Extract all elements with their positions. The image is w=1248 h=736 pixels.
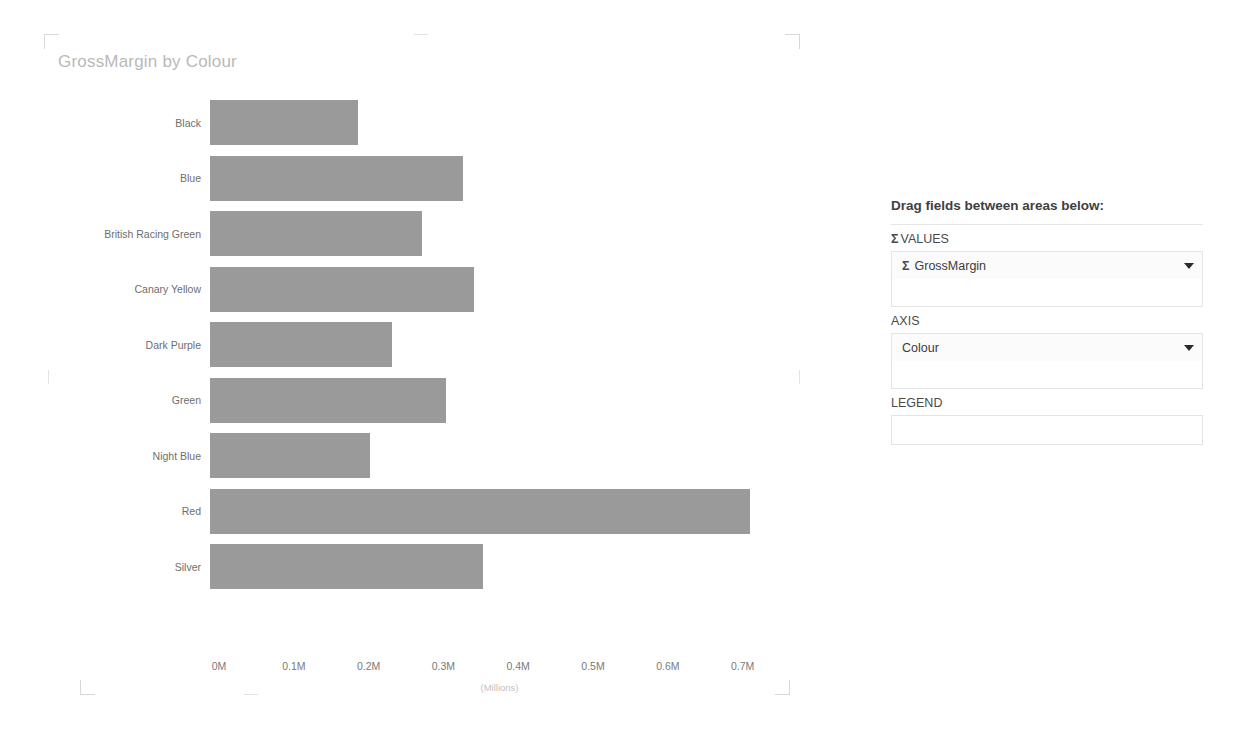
field-chip-label: Colour bbox=[902, 341, 1178, 355]
bar-category-label: Silver bbox=[64, 561, 210, 573]
resize-handle-top[interactable] bbox=[414, 34, 428, 35]
bar-row[interactable]: Green bbox=[64, 373, 780, 429]
selection-corner-top-right bbox=[785, 34, 800, 49]
bar-track bbox=[210, 428, 780, 484]
field-well-section-label: LEGEND bbox=[891, 396, 942, 410]
bar-fill[interactable] bbox=[210, 211, 422, 256]
field-well-divider bbox=[891, 224, 1203, 225]
field-well-section-title: ΣVALUES bbox=[891, 232, 1203, 246]
bar-category-label: Dark Purple bbox=[64, 339, 210, 351]
bar-track bbox=[210, 151, 780, 207]
field-drop-area[interactable] bbox=[891, 415, 1203, 445]
bar-row[interactable]: Blue bbox=[64, 151, 780, 207]
bar-fill[interactable] bbox=[210, 322, 392, 367]
bar-category-label: Night Blue bbox=[64, 450, 210, 462]
x-axis-tick: 0.7M bbox=[731, 660, 754, 672]
selection-corner-top-left bbox=[44, 34, 59, 49]
field-chip-label: GrossMargin bbox=[915, 259, 1178, 273]
bar-fill[interactable] bbox=[210, 156, 463, 201]
field-well-section-title: LEGEND bbox=[891, 396, 1203, 410]
bar-row[interactable]: Red bbox=[64, 484, 780, 540]
bar-category-label: Green bbox=[64, 394, 210, 406]
x-axis-tick: 0.1M bbox=[282, 660, 305, 672]
bar-track bbox=[210, 95, 780, 151]
bar-fill[interactable] bbox=[210, 378, 446, 423]
x-axis-tick: 0M bbox=[212, 660, 227, 672]
field-well-section: LEGEND bbox=[891, 396, 1203, 445]
bar-track bbox=[210, 206, 780, 262]
bar-category-label: Red bbox=[64, 505, 210, 517]
field-well-heading: Drag fields between areas below: bbox=[891, 198, 1203, 213]
chart-visual-container[interactable]: GrossMargin by Colour BlackBlueBritish R… bbox=[44, 30, 800, 695]
x-axis: 0M0.1M0.2M0.3M0.4M0.5M0.6M0.7M (Millions… bbox=[64, 660, 780, 700]
bar-track bbox=[210, 539, 780, 595]
x-axis-tick: 0.3M bbox=[432, 660, 455, 672]
bar-row[interactable]: Night Blue bbox=[64, 428, 780, 484]
x-axis-label: (Millions) bbox=[219, 682, 780, 693]
field-well-section: AXISColour bbox=[891, 314, 1203, 389]
bar-category-label: Black bbox=[64, 117, 210, 129]
chevron-down-icon[interactable] bbox=[1184, 345, 1194, 351]
x-axis-tick: 0.4M bbox=[507, 660, 530, 672]
field-chip[interactable]: Colour bbox=[892, 334, 1202, 361]
x-axis-tick: 0.5M bbox=[581, 660, 604, 672]
bar-category-label: Canary Yellow bbox=[64, 283, 210, 295]
field-well-section-label: AXIS bbox=[891, 314, 920, 328]
bar-row[interactable]: Silver bbox=[64, 539, 780, 595]
x-axis-tick-labels: 0M0.1M0.2M0.3M0.4M0.5M0.6M0.7M bbox=[219, 660, 780, 676]
bar-row[interactable]: Canary Yellow bbox=[64, 262, 780, 318]
x-axis-tick: 0.6M bbox=[656, 660, 679, 672]
bar-row[interactable]: Dark Purple bbox=[64, 317, 780, 373]
bar-category-label: Blue bbox=[64, 172, 210, 184]
chevron-down-icon[interactable] bbox=[1184, 263, 1194, 269]
bar-track bbox=[210, 484, 780, 540]
resize-handle-left[interactable] bbox=[48, 370, 49, 384]
bar-fill[interactable] bbox=[210, 267, 474, 312]
bar-fill[interactable] bbox=[210, 544, 483, 589]
bar-track bbox=[210, 317, 780, 373]
field-drop-area[interactable]: ΣGrossMargin bbox=[891, 251, 1203, 307]
sigma-icon: Σ bbox=[902, 259, 910, 273]
bar-row[interactable]: Black bbox=[64, 95, 780, 151]
chart-title: GrossMargin by Colour bbox=[58, 52, 237, 72]
field-well-panel: Drag fields between areas below: ΣVALUES… bbox=[891, 198, 1203, 452]
bar-category-label: British Racing Green bbox=[64, 228, 210, 240]
field-well-section-title: AXIS bbox=[891, 314, 1203, 328]
field-chip[interactable]: ΣGrossMargin bbox=[892, 252, 1202, 279]
field-drop-area[interactable]: Colour bbox=[891, 333, 1203, 389]
sigma-icon: Σ bbox=[891, 232, 899, 246]
bar-track bbox=[210, 262, 780, 318]
resize-handle-right[interactable] bbox=[799, 370, 800, 384]
bar-fill[interactable] bbox=[210, 489, 750, 534]
bar-row[interactable]: British Racing Green bbox=[64, 206, 780, 262]
field-well-section-label: VALUES bbox=[901, 232, 949, 246]
bar-track bbox=[210, 373, 780, 429]
field-well-section: ΣVALUESΣGrossMargin bbox=[891, 232, 1203, 307]
x-axis-tick: 0.2M bbox=[357, 660, 380, 672]
bar-fill[interactable] bbox=[210, 433, 370, 478]
plot-area: BlackBlueBritish Racing GreenCanary Yell… bbox=[64, 95, 780, 655]
bar-fill[interactable] bbox=[210, 100, 358, 145]
field-well-sections: ΣVALUESΣGrossMarginAXISColourLEGEND bbox=[891, 232, 1203, 445]
